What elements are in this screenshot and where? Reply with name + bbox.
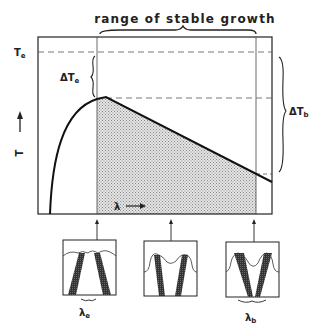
arrowhead-left [95, 219, 99, 224]
panel-middle [144, 241, 197, 296]
arrowhead-middle [169, 219, 173, 224]
arrowhead-right [252, 219, 256, 224]
y-axis-arrowhead [17, 111, 23, 119]
lambda-b-label: λb [245, 312, 256, 325]
delta-Tb-brace [279, 57, 286, 172]
title: range of stable growth [94, 12, 276, 26]
stable-region-shading [97, 97, 256, 214]
stable-growth-diagram: range of stable growth Te ΔTe ΔTb T λ λe [0, 0, 321, 336]
panel-lambda-b: λb [226, 242, 279, 325]
panel-lambda-e: λe [63, 240, 116, 320]
y-axis-label: T [14, 149, 25, 156]
delta-Te-label: ΔTe [60, 72, 80, 85]
range-brace [100, 26, 256, 34]
Te-label: Te [14, 47, 26, 60]
lambda-e-label: λe [79, 307, 90, 320]
delta-Tb-label: ΔTb [289, 106, 309, 119]
x-axis-label: λ [114, 201, 121, 212]
delta-Te-brace [91, 56, 95, 97]
